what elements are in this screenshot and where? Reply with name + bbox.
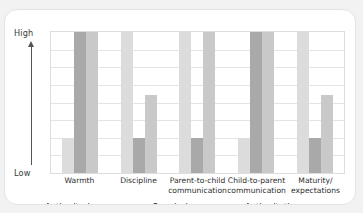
x-axis-label-line1: Child-to-parent — [227, 176, 286, 186]
x-axis-label: Maturity/expectations — [286, 176, 345, 195]
bar-group — [121, 32, 157, 173]
y-axis-high-label: High — [14, 28, 48, 38]
bar — [297, 32, 309, 173]
x-axis-label-line1: Discipline — [109, 176, 168, 186]
chart-card: High Low WarmthDisciplineParent-to-child… — [4, 9, 356, 205]
chart-figure: High Low WarmthDisciplineParent-to-child… — [0, 0, 363, 213]
x-axis-label-line1: Parent-to-child — [168, 176, 227, 186]
bar-group — [179, 32, 215, 173]
bar — [62, 138, 74, 173]
bar — [238, 138, 250, 173]
bar — [203, 32, 215, 173]
bar-group — [62, 32, 98, 173]
x-axis-label: Child-to-parentcommunication — [227, 176, 286, 195]
bar — [145, 95, 157, 173]
x-axis-label-line2: expectations — [286, 186, 345, 196]
bar — [191, 138, 203, 173]
x-axis-label: Parent-to-childcommunication — [168, 176, 227, 195]
x-axis-label-line1: Warmth — [50, 176, 109, 186]
x-axis-labels: WarmthDisciplineParent-to-childcommunica… — [50, 176, 345, 198]
legend-item[interactable]: Authoritarian — [33, 202, 141, 205]
bar — [86, 32, 98, 173]
plot-area — [50, 31, 345, 174]
x-axis-label-line1: Maturity/ — [286, 176, 345, 186]
legend-item[interactable]: Permissive — [141, 202, 233, 205]
bar — [309, 138, 321, 173]
bar — [250, 32, 262, 173]
bar — [321, 95, 333, 173]
bar — [262, 32, 274, 173]
legend-item[interactable]: Authoritative — [233, 202, 333, 205]
y-axis: High Low — [14, 28, 48, 178]
bar — [121, 32, 133, 173]
chart-legend: AuthoritarianPermissiveAuthoritative — [33, 200, 333, 205]
legend-label: Authoritarian — [45, 202, 100, 205]
legend-swatch-icon — [141, 204, 148, 206]
y-axis-low-label: Low — [14, 168, 48, 178]
bar — [74, 32, 86, 173]
bar — [179, 32, 191, 173]
bars-layer — [51, 32, 344, 173]
up-arrow-icon — [28, 41, 35, 165]
legend-swatch-icon — [233, 204, 240, 206]
bar — [133, 138, 145, 173]
x-axis-label: Discipline — [109, 176, 168, 186]
x-axis-label: Warmth — [50, 176, 109, 186]
x-axis-label-line2: communication — [168, 186, 227, 196]
x-axis-label-line2: communication — [227, 186, 286, 196]
bar-group — [297, 32, 333, 173]
bar-group — [238, 32, 274, 173]
legend-swatch-icon — [33, 204, 40, 206]
legend-label: Permissive — [153, 202, 198, 205]
legend-label: Authoritative — [245, 202, 300, 205]
